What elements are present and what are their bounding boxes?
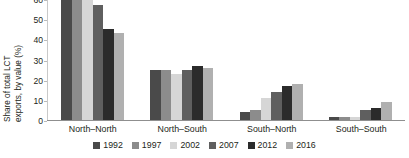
legend-label: 2002 (180, 140, 200, 150)
y-tick-label: 10 (33, 96, 43, 106)
legend-item[interactable]: 1992 (93, 140, 123, 150)
bar (161, 70, 172, 120)
legend-swatch-icon (93, 142, 100, 149)
x-axis-line (47, 120, 405, 121)
legend-item[interactable]: 2016 (286, 140, 316, 150)
y-tick-mark (44, 61, 47, 62)
x-axis-category-label: North–South (138, 124, 228, 138)
bar (82, 0, 93, 120)
legend-item[interactable]: 1997 (132, 140, 162, 150)
bar (292, 84, 303, 120)
legend-label: 1997 (142, 140, 162, 150)
y-tick-label: 0 (38, 116, 43, 126)
y-tick-label: 50 (33, 15, 43, 25)
bar (114, 33, 125, 120)
y-tick-label: 30 (33, 56, 43, 66)
bar (150, 70, 161, 120)
y-tick-label: 20 (33, 76, 43, 86)
chart-legend: 199219972002200720122016 (0, 140, 409, 150)
bar (282, 86, 293, 120)
bar (329, 117, 340, 120)
legend-label: 2007 (219, 140, 239, 150)
bar (271, 92, 282, 120)
y-axis-title-line-1: Share of total LCT (3, 0, 14, 122)
bar (72, 0, 83, 120)
x-axis-category-labels: North–NorthNorth–SouthSouth–NorthSouth–S… (48, 124, 406, 138)
bar (250, 110, 261, 120)
bar (182, 70, 193, 120)
bar-groups (48, 0, 405, 120)
y-tick-mark (44, 0, 47, 1)
x-axis-category-label: South–South (317, 124, 407, 138)
legend-label: 2012 (258, 140, 278, 150)
y-tick-mark (44, 20, 47, 21)
bar (203, 68, 214, 120)
bar (61, 0, 72, 120)
bar (360, 110, 371, 120)
bar (103, 29, 114, 120)
bar-group (137, 0, 226, 120)
y-tick-label: 40 (33, 35, 43, 45)
y-axis-title: Share of total LCT exports, by value (%) (0, 0, 26, 125)
legend-swatch-icon (248, 142, 255, 149)
legend-item[interactable]: 2007 (209, 140, 239, 150)
bar-group (227, 0, 316, 120)
legend-label: 1992 (103, 140, 123, 150)
y-axis-title-line-2: exports, by value (%) (14, 0, 25, 122)
legend-swatch-icon (209, 142, 216, 149)
bar-group (316, 0, 405, 120)
legend-swatch-icon (286, 142, 293, 149)
y-tick-mark (44, 101, 47, 102)
bar (240, 112, 251, 120)
legend-item[interactable]: 2002 (170, 140, 200, 150)
bar (339, 117, 350, 120)
legend-swatch-icon (170, 142, 177, 149)
legend-swatch-icon (132, 142, 139, 149)
y-tick-label: 60 (33, 0, 43, 5)
chart-container: Share of total LCT exports, by value (%)… (0, 0, 409, 158)
bar (381, 102, 392, 120)
y-tick-mark (44, 40, 47, 41)
bar (192, 66, 203, 120)
legend-label: 2016 (296, 140, 316, 150)
bar (371, 108, 382, 120)
x-axis-category-label: South–North (227, 124, 317, 138)
bar (350, 117, 361, 120)
plot-area: 0102030405060 (47, 0, 405, 121)
y-tick-mark (44, 121, 47, 122)
bar-group (48, 0, 137, 120)
bar (261, 98, 272, 120)
x-axis-category-label: North–North (48, 124, 138, 138)
legend-item[interactable]: 2012 (248, 140, 278, 150)
y-tick-mark (44, 81, 47, 82)
bar (93, 5, 104, 120)
bar (171, 74, 182, 120)
